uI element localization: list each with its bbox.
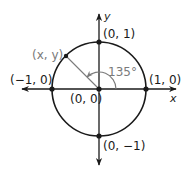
label-pos-x: (1, 0): [149, 73, 181, 87]
angle-label: 135°: [108, 65, 137, 79]
point-pos-x: [143, 86, 148, 91]
point-pos-y: [96, 39, 101, 44]
label-pos-y: (0, 1): [103, 27, 135, 41]
point-terminal: [64, 54, 68, 58]
label-terminal-point: (x, y): [32, 48, 63, 62]
point-origin: [96, 86, 101, 91]
unit-circle-diagram: y x (0, 1) (1, 0) (−1, 0) (0, 0) (0, −1)…: [0, 0, 186, 176]
y-axis-label: y: [103, 10, 111, 23]
point-neg-y: [96, 133, 101, 138]
label-origin: (0, 0): [70, 92, 102, 106]
label-neg-y: (0, −1): [103, 139, 145, 153]
x-axis-label: x: [169, 92, 177, 105]
label-neg-x: (−1, 0): [10, 73, 52, 87]
point-neg-x: [49, 86, 54, 91]
